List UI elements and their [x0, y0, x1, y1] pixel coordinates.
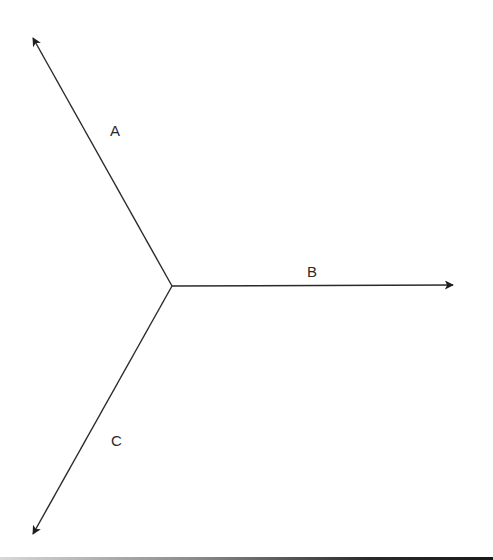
vector-c: C [33, 286, 172, 534]
vector-diagram: A B C [0, 0, 493, 560]
vector-b-label: B [307, 263, 317, 280]
vector-a-line [33, 38, 172, 286]
vector-c-label: C [111, 432, 122, 449]
vector-b-line [172, 285, 453, 286]
vector-a: A [33, 38, 172, 286]
vector-c-line [33, 286, 172, 534]
vector-a-label: A [110, 122, 120, 139]
vector-b: B [172, 263, 453, 286]
